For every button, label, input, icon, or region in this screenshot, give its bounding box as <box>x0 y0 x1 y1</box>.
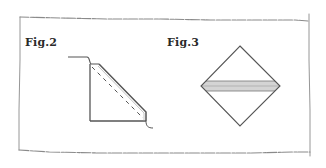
border-left <box>19 17 20 150</box>
fig3-label: Fig.3 <box>167 37 199 48</box>
border-right <box>309 14 310 156</box>
fig2-dashed-fold-line <box>92 67 143 118</box>
fig2-top-curve <box>68 57 99 64</box>
fig2-diagonal-edge <box>99 64 146 121</box>
fig2-diagram <box>68 57 153 128</box>
border-bottom <box>19 150 310 153</box>
fig2-tail-curve <box>146 121 153 128</box>
diagram-canvas: Fig.2 Fig.3 <box>0 0 326 168</box>
diagram-svg <box>0 0 326 168</box>
fig2-label: Fig.2 <box>25 37 57 48</box>
fig3-diagram <box>201 46 280 126</box>
border-top <box>20 17 309 21</box>
